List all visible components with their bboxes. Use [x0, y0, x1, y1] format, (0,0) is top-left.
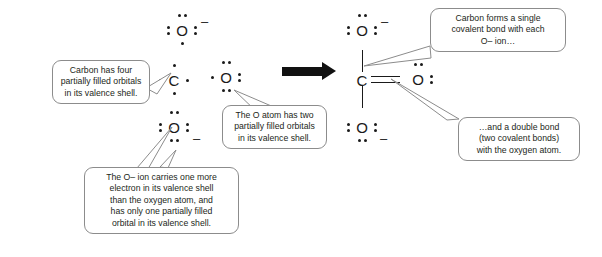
leader-oxide-ion-2: [160, 150, 176, 168]
callout-oxygen-atom-line-2: partially filled orbitals: [228, 121, 321, 132]
reaction-arrow-shaft: [282, 67, 324, 76]
callout-oxygen-atom-line-1: The O atom has two: [228, 110, 321, 121]
callout-oxide-ion-line-4: has only one partially filled: [90, 206, 233, 217]
callout-carbon-line-2: partially filled orbitals: [58, 76, 144, 87]
product-oxygen-atom-symbol: O: [396, 57, 440, 101]
callout-double-bond-line-3: with the oxygen atom.: [464, 145, 574, 156]
callout-double-bond-line-2: (two covalent bonds): [464, 133, 574, 144]
oxide-ion-top-symbol: O: [160, 8, 204, 52]
negative-charge-sign: –: [193, 132, 200, 145]
product-oxide-ion-top-symbol: O: [340, 8, 384, 52]
callout-oxide-ion-line-2: electron in its valence shell: [90, 183, 233, 194]
negative-charge-sign: –: [201, 15, 208, 28]
callout-oxide-ion-line-5: orbital in its valence shell.: [90, 218, 233, 229]
oxide-ion-bottom: O –: [152, 105, 196, 149]
product-oxygen-atom: O: [396, 57, 440, 101]
callout-single-bond-line-1: Carbon forms a single: [436, 13, 560, 24]
callout-single-bond: Carbon forms a single covalent bond with…: [430, 8, 566, 52]
callout-carbon: Carbon has four partially filled orbital…: [52, 60, 150, 104]
lewis-structure-diagram: O – C O O –: [0, 0, 602, 257]
negative-charge-sign: –: [380, 132, 387, 145]
product-oxide-ion-bottom-symbol: O: [340, 105, 384, 149]
callout-oxide-ion-line-1: The O– ion carries one more: [90, 172, 233, 183]
callout-double-bond: …and a double bond (two covalent bonds) …: [458, 117, 580, 161]
oxygen-atom: O: [204, 55, 248, 99]
callout-single-bond-line-3: O– ion…: [436, 36, 560, 47]
callout-carbon-line-1: Carbon has four: [58, 65, 144, 76]
callout-oxide-ion: The O– ion carries one more electron in …: [84, 167, 239, 234]
carbon-atom: C: [152, 58, 196, 102]
negative-charge-sign: –: [381, 15, 388, 28]
oxide-ion-top: O –: [160, 8, 204, 52]
oxide-ion-bottom-symbol: O: [152, 105, 196, 149]
callout-oxygen-atom-line-3: in its valence shell.: [228, 133, 321, 144]
product-oxide-ion-bottom: O –: [340, 105, 384, 149]
product-oxide-ion-top: O –: [340, 8, 384, 52]
callout-oxygen-atom: The O atom has two partially filled orbi…: [222, 105, 327, 149]
callout-oxide-ion-line-3: than the oxygen atom, and: [90, 195, 233, 206]
callout-double-bond-line-1: …and a double bond: [464, 122, 574, 133]
callout-carbon-line-3: in its valence shell.: [58, 88, 144, 99]
callout-single-bond-line-2: covalent bond with each: [436, 24, 560, 35]
reaction-arrow-head: [322, 62, 336, 80]
